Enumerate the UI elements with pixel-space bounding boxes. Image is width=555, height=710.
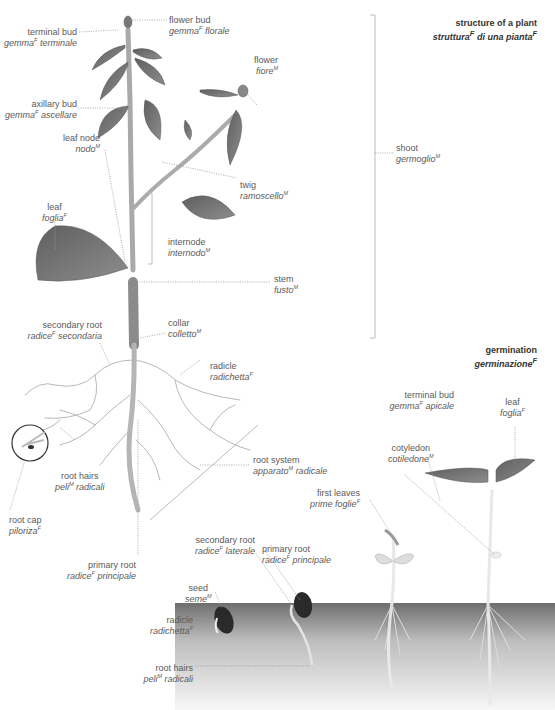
label-germ-terminal-bud: terminal bud gemmaF apicale: [390, 390, 454, 411]
label-germ-seed: seed semeM: [185, 583, 212, 604]
label-germ-root-hairs: root hairs peliM radicali: [143, 663, 193, 684]
label-germ-radicle: radicle radichettaF: [150, 615, 193, 636]
label-collar: collar collettoM: [168, 318, 201, 339]
internode-bracket: [148, 193, 152, 264]
label-leaf: leaf fogliaF: [42, 202, 67, 223]
label-root-hairs: root hairs peliM radicali: [55, 471, 105, 492]
label-internode: internode internodoM: [168, 237, 210, 258]
label-germ-primary-root: primary root radiceF principale: [262, 544, 331, 565]
label-primary-root: primary root radiceF principale: [67, 560, 136, 581]
label-secondary-root: secondary root radiceF secondaria: [28, 320, 102, 341]
label-germ-first-leaves: first leaves prime foglieF: [310, 488, 360, 509]
label-shoot: shoot germoglioM: [396, 143, 440, 164]
label-radicle: radicle radichettaF: [210, 361, 253, 382]
label-root-cap: root cap pilorizaF: [9, 515, 42, 536]
plant-illustration: [0, 0, 555, 710]
label-flower-bud: flower bud gemmaF florale: [169, 15, 229, 36]
root-system-bracket: [150, 425, 258, 520]
label-root-system: root system apparatoM radicale: [253, 455, 327, 476]
label-terminal-bud: terminal bud gemmaF terminale: [4, 27, 77, 48]
label-stem: stem fustoM: [274, 274, 298, 295]
structure-of-a-plant-title: structure of a plant strutturaF di una p…: [433, 18, 537, 42]
label-axillary-bud: axillary bud gemmaF ascellare: [5, 99, 77, 120]
label-germ-cotyledon: cotyledon cotiledoneM: [388, 443, 434, 464]
germination-title: germination germinazioneF: [474, 345, 537, 369]
label-twig: twig ramoscelloM: [240, 180, 288, 201]
label-germ-leaf: leaf fogliaF: [500, 397, 525, 418]
label-germ-secondary-root: secondary root radiceF laterale: [195, 535, 255, 556]
label-flower: flower fioreM: [254, 55, 278, 76]
label-leaf-node: leaf node nodoM: [63, 133, 100, 154]
shoot-bracket: [370, 15, 375, 338]
